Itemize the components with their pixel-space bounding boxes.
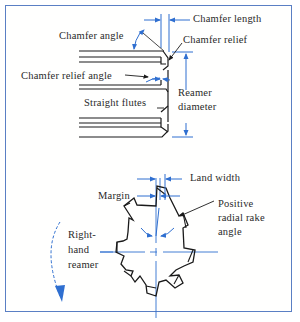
reamer-side-view bbox=[79, 51, 168, 137]
label-chamfer-relief-angle: Chamfer relief angle bbox=[21, 69, 112, 82]
label-chamfer-length: Chamfer length bbox=[193, 12, 261, 25]
rotation-arrow bbox=[51, 222, 60, 296]
label-straight-flutes: Straight flutes bbox=[84, 96, 146, 109]
label-right-hand-line3: reamer bbox=[68, 258, 98, 271]
label-margin: Margin bbox=[98, 189, 130, 202]
label-right-hand-line2: hand bbox=[68, 243, 89, 256]
label-chamfer-angle: Chamfer angle bbox=[59, 29, 124, 42]
label-positive-rake-line2: radial rake bbox=[218, 211, 265, 224]
label-land-width: Land width bbox=[190, 171, 240, 184]
label-reamer-diameter-line1: Reamer bbox=[178, 86, 212, 99]
rotation-arrowhead bbox=[55, 285, 65, 302]
label-reamer-diameter-line2: diameter bbox=[178, 100, 216, 113]
label-right-hand-line1: Right- bbox=[68, 228, 96, 241]
reamer-profile bbox=[116, 186, 195, 296]
reamer-diagram bbox=[0, 0, 300, 322]
label-positive-rake-line3: angle bbox=[218, 225, 242, 238]
label-positive-rake-line1: Positive bbox=[218, 197, 253, 210]
label-chamfer-relief: Chamfer relief bbox=[183, 33, 247, 46]
